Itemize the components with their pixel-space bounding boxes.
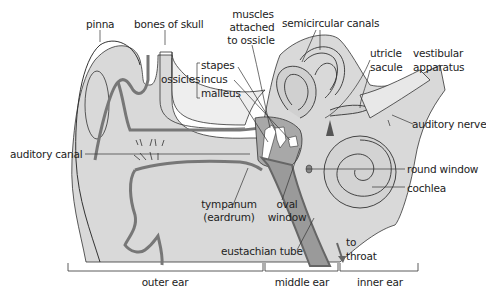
label-muscles-line3: to ossicle: [218, 34, 284, 46]
label-apparatus: apparatus: [413, 61, 464, 73]
label-semicircular-canals: semicircular canals: [282, 17, 379, 29]
label-malleus: malleus: [201, 87, 241, 99]
label-pinna: pinna: [86, 18, 114, 30]
label-tympanum: tympanum: [198, 198, 260, 210]
label-round-window: round window: [407, 163, 478, 175]
label-sacule: sacule: [370, 61, 403, 73]
region-inner-ear: inner ear: [340, 276, 420, 288]
cochlea-spiral: [324, 136, 396, 208]
label-ossicles: ossicles: [161, 73, 200, 85]
label-incus: incus: [201, 73, 227, 85]
label-window: window: [262, 211, 312, 223]
label-to: to: [346, 236, 356, 248]
region-brackets: [68, 263, 418, 271]
region-outer-ear: outer ear: [120, 276, 210, 288]
stapes-bone: [288, 136, 298, 147]
label-oval: oval: [264, 198, 310, 210]
label-stapes: stapes: [201, 59, 234, 71]
label-eustachian-tube: eustachian tube: [221, 245, 303, 257]
label-throat: throat: [346, 250, 377, 262]
label-auditory-canal: auditory canal: [10, 148, 83, 160]
label-auditory-nerve: auditory nerve: [412, 118, 486, 130]
label-muscles-line1: muscles: [228, 8, 278, 20]
label-muscles-line2: attached: [222, 21, 282, 33]
region-middle-ear: middle ear: [262, 276, 342, 288]
label-eardrum: (eardrum): [198, 211, 260, 223]
label-utricle: utricle: [370, 47, 402, 59]
label-cochlea: cochlea: [407, 182, 446, 194]
label-vestibular: vestibular: [413, 47, 463, 59]
label-bones-of-skull: bones of skull: [134, 18, 203, 30]
